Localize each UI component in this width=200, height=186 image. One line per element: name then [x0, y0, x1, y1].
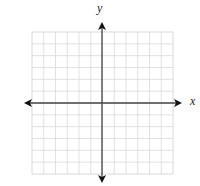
- x-axis-label: x: [190, 94, 195, 109]
- coordinate-plane: [0, 0, 200, 186]
- axes: [24, 22, 182, 183]
- y-axis-label: y: [97, 1, 102, 16]
